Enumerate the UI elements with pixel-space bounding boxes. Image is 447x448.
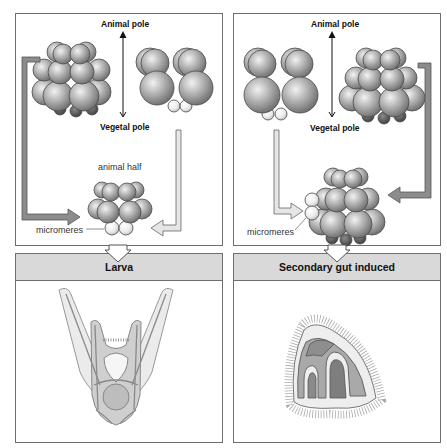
right-micromeres-leader xyxy=(295,218,306,230)
left-arrow-from-8cell xyxy=(151,130,181,236)
right-recombined-embryo xyxy=(305,168,385,246)
right-embryo-32cell xyxy=(339,48,425,124)
left-pole-axis-arrow xyxy=(120,31,127,117)
left-embryo-8cell xyxy=(136,48,213,112)
secondary-gut-illustration xyxy=(289,319,383,415)
left-down-arrow xyxy=(105,245,131,262)
left-recombined-embryo xyxy=(88,182,152,235)
right-arrow-from-8cell xyxy=(274,130,303,219)
diagram-drawing xyxy=(0,0,447,448)
pluteus-larva-illustration xyxy=(59,288,173,425)
right-down-arrow xyxy=(324,245,350,262)
left-embryo-32cell xyxy=(32,42,111,117)
right-pole-axis-arrow xyxy=(329,31,336,117)
right-embryo-8cell xyxy=(244,48,318,120)
